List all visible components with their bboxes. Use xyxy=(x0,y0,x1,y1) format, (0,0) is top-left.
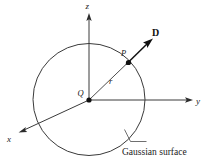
y-axis-label: y xyxy=(195,96,200,106)
x-axis-arrowhead xyxy=(19,127,28,132)
gaussian-surface-figure: z y x r Q P D Gaussian surface xyxy=(0,0,215,166)
origin-charge-dot xyxy=(86,97,91,102)
figure-canvas: z y x r Q P D Gaussian surface xyxy=(0,0,215,166)
flux-density-vector-shaft xyxy=(126,43,149,65)
x-axis-label: x xyxy=(6,134,11,144)
point-p-label: P xyxy=(120,48,126,58)
gaussian-surface-caption: Gaussian surface xyxy=(122,147,187,157)
charge-label: Q xyxy=(78,88,84,98)
z-axis-label: z xyxy=(85,1,90,11)
flux-density-vector-label: D xyxy=(152,27,159,38)
